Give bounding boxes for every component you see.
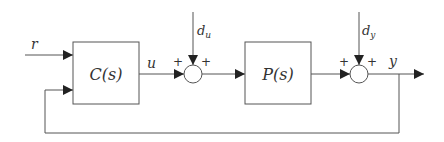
output-label: y	[388, 53, 398, 69]
control-signal-label: u	[147, 55, 156, 71]
reference-label: r	[31, 36, 39, 52]
output-sum-left-sign: +	[339, 55, 349, 69]
input-summing-junction	[184, 65, 202, 83]
input-disturbance-label: du	[197, 23, 211, 40]
input-sum-left-sign: +	[173, 55, 183, 69]
output-disturbance-label: dy	[362, 23, 376, 40]
output-sum-top-sign: +	[367, 55, 377, 69]
input-sum-top-sign: +	[201, 55, 211, 69]
controller-label: C(s)	[90, 65, 123, 84]
plant-label: P(s)	[261, 65, 293, 84]
output-summing-junction	[350, 65, 368, 83]
block-diagram: r C(s) u du + + P(s) dy + + y	[0, 0, 444, 142]
